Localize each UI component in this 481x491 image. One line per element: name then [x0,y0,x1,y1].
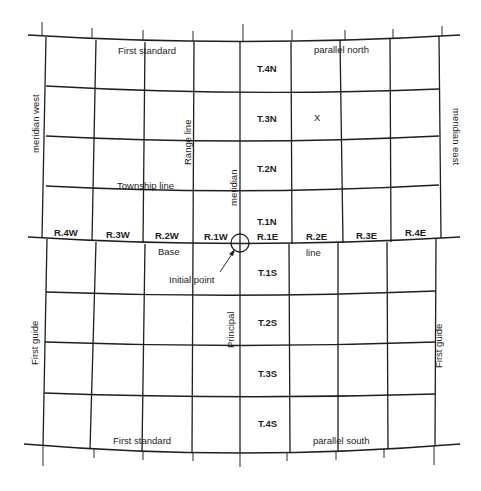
top-standard-label-right: parallel north [314,44,369,55]
first-standard-parallel-north [28,35,460,42]
south-range-lines [43,239,436,452]
arrow-head-icon [229,249,235,256]
township-label-4s: T.4S [258,418,277,429]
principal-meridian-lower-label: Principal [225,312,236,348]
base-line [28,237,460,244]
first-guide-east-label: First guide [433,324,444,368]
meridian-west-label: meridian west [30,94,41,153]
township-label-3s: T.3S [258,368,277,379]
township-label-1s: T.1S [258,267,277,278]
base-line-label-right: line [306,247,321,258]
township-label-3n: T.3N [257,113,277,124]
north-range-lines [42,36,441,244]
range-label-3w: R.3W [106,229,130,240]
range-label-3e: R.3E [356,230,377,241]
first-guide-west-label: First guide [29,321,40,365]
top-standard-label-left: First standard [118,45,176,56]
range-label-4e: R.4E [405,227,426,238]
marker-x: X [314,112,321,123]
meridian-east-label: meridian east [451,108,462,165]
range-line-label: Range line [182,120,193,165]
range-label-2w: R.2W [155,230,179,241]
bottom-standard-label-left: First standard [113,435,171,446]
survey-diagram: First standard parallel north First stan… [0,0,481,491]
base-line-label-left: Base [158,246,180,257]
initial-point-label: Initial point [169,274,215,285]
north-township-lines [46,86,439,191]
township-label-1n: T.1N [257,216,277,227]
range-label-4w: R.4W [54,227,78,238]
township-label-4n: T.4N [257,63,277,74]
township-label-2s: T.2S [258,317,277,328]
township-line-label: Township line [117,180,174,191]
range-label-1w: R.1W [204,231,228,242]
township-label-2n: T.2N [257,163,277,174]
range-label-1e: R.1E [257,231,278,242]
principal-meridian-upper-label: meridian [228,170,239,206]
bottom-standard-label-right: parallel south [313,435,370,446]
range-label-2e: R.2E [306,231,327,242]
